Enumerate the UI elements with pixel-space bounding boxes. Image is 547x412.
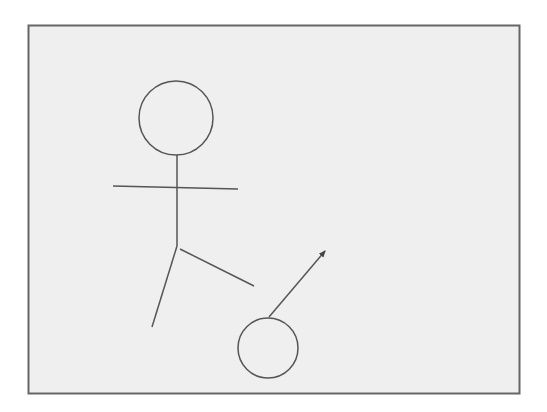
diagram-canvas bbox=[0, 0, 547, 412]
diagram-panel bbox=[29, 26, 520, 394]
